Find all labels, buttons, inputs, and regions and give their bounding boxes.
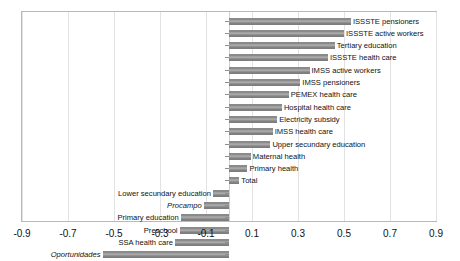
bar — [229, 91, 289, 98]
bar-row: ISSSTE active workers — [22, 28, 436, 40]
x-axis-tick-labels: -0.9-0.7-0.5-0.3-0.10.10.30.50.70.9 — [0, 228, 460, 244]
bar-label: Maternal health — [253, 153, 305, 161]
bar-label: Procampo — [167, 202, 202, 210]
bar-row: Hospital health care — [22, 102, 436, 114]
x-tick-label: -0.3 — [151, 228, 168, 239]
bar-row: Primary education — [22, 212, 436, 224]
x-tick-label: -0.5 — [105, 228, 122, 239]
category-tick — [225, 107, 229, 108]
bar-label: PEMEX health care — [291, 91, 357, 99]
category-tick — [225, 94, 229, 95]
bar — [229, 128, 273, 135]
category-tick — [225, 33, 229, 34]
bar-label: Electricity subsidy — [279, 116, 339, 124]
category-tick — [225, 119, 229, 120]
bar-label: ISSSTE health care — [330, 54, 397, 62]
category-tick — [225, 45, 229, 46]
x-tick-label: -0.7 — [59, 228, 76, 239]
bar — [229, 104, 282, 111]
category-tick — [225, 193, 229, 194]
x-tick-label: 0.9 — [429, 228, 443, 239]
x-tick-label: 0.3 — [291, 228, 305, 239]
bar-label: IMSS active workers — [312, 67, 381, 75]
category-tick — [225, 168, 229, 169]
bar-row: Procampo — [22, 200, 436, 212]
category-tick — [225, 156, 229, 157]
bar-row: Electricity subsidy — [22, 114, 436, 126]
bar — [229, 153, 251, 160]
bar — [229, 42, 335, 49]
x-tick-label: 0.7 — [383, 228, 397, 239]
gridline-0p9 — [436, 12, 437, 221]
bar-label: Lower secundary education — [118, 190, 211, 198]
bar — [229, 30, 344, 37]
bar-row: Oportunidades — [22, 249, 436, 261]
bar-label: ISSSTE pensioners — [353, 18, 419, 26]
category-tick — [225, 254, 229, 255]
bar-row: IMSS active workers — [22, 65, 436, 77]
bar — [229, 54, 328, 61]
bar-label: IMSS pensioners — [302, 79, 360, 87]
bar — [229, 18, 351, 25]
x-tick-label: 0.5 — [337, 228, 351, 239]
bar-row: Tertiary education — [22, 40, 436, 52]
x-tick-label: -0.9 — [13, 228, 30, 239]
bar-row: IMSS pensioners — [22, 77, 436, 89]
bar-label: Oportunidades — [51, 251, 101, 259]
bar-row: ISSSTE health care — [22, 52, 436, 64]
bar-label: ISSSTE active workers — [346, 30, 424, 38]
bar — [103, 251, 230, 258]
bar-label: Primary health — [249, 165, 298, 173]
bar — [229, 165, 247, 172]
bar — [181, 214, 229, 221]
bar-row: Total — [22, 175, 436, 187]
bar-label: IMSS health care — [275, 128, 333, 136]
bar-label: Total — [241, 177, 257, 185]
bar-label: Tertiary education — [337, 42, 397, 50]
category-tick — [225, 205, 229, 206]
bar-row: Upper secundary education — [22, 139, 436, 151]
bar-row: ISSSTE pensioners — [22, 16, 436, 28]
plot-area: ISSSTE pensionersISSSTE active workersTe… — [21, 11, 437, 222]
bar-label: Upper secundary education — [272, 141, 365, 149]
category-tick — [225, 217, 229, 218]
bar — [229, 141, 270, 148]
bar-row: PEMEX health care — [22, 89, 436, 101]
x-tick-label: 0.1 — [245, 228, 259, 239]
category-tick — [225, 57, 229, 58]
bar-label: Primary education — [118, 214, 179, 222]
category-tick — [225, 82, 229, 83]
bar — [229, 67, 310, 74]
bar-row: Primary health — [22, 163, 436, 175]
bar-label: Hospital health care — [284, 104, 351, 112]
bar — [229, 177, 239, 184]
category-tick — [225, 21, 229, 22]
bar-row: Maternal health — [22, 151, 436, 163]
category-tick — [225, 180, 229, 181]
bar-row: IMSS health care — [22, 126, 436, 138]
bar-row: Lower secundary education — [22, 188, 436, 200]
bar — [229, 79, 300, 86]
category-tick — [225, 70, 229, 71]
bar — [229, 116, 277, 123]
category-tick — [225, 144, 229, 145]
x-tick-label: -0.1 — [197, 228, 214, 239]
category-tick — [225, 131, 229, 132]
